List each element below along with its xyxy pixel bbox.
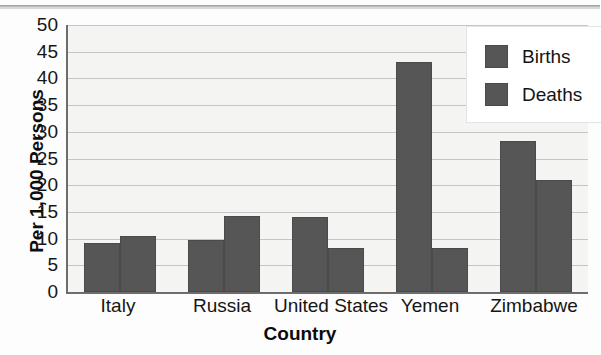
bar-births-russia <box>188 240 224 292</box>
bar-deaths-united-states <box>328 248 364 292</box>
y-axis-tick-label: 10 <box>37 229 58 248</box>
legend-item-deaths: Deaths <box>485 81 582 107</box>
y-axis-tick-label: 50 <box>37 15 58 34</box>
bar-deaths-italy <box>120 236 156 292</box>
bar-births-zimbabwe <box>500 141 536 292</box>
y-axis-tick-label: 5 <box>47 255 58 274</box>
x-axis-tick-label: Russia <box>170 296 274 315</box>
legend-swatch-births <box>485 45 508 68</box>
x-axis-tick-labels: ItalyRussiaUnited StatesYemenZimbabwe <box>0 296 600 324</box>
legend-swatch-deaths <box>485 83 508 106</box>
x-axis-tick-label: United States <box>274 296 378 315</box>
x-axis-tick-label: Yemen <box>378 296 482 315</box>
x-axis-tick-label: Zimbabwe <box>482 296 586 315</box>
y-axis-tick-label: 40 <box>37 68 58 87</box>
bar-births-united-states <box>292 217 328 292</box>
bar-deaths-russia <box>224 216 260 292</box>
y-axis-tick-label: 45 <box>37 42 58 61</box>
y-axis-tick-label: 30 <box>37 122 58 141</box>
scan-artifact-line-secondary <box>0 8 600 9</box>
bar-births-italy <box>84 243 120 292</box>
bar-births-yemen <box>396 62 432 292</box>
bar-deaths-yemen <box>432 248 468 292</box>
y-axis-tick-label: 25 <box>37 149 58 168</box>
x-axis-title: Country <box>0 324 600 343</box>
x-axis-tick-label: Italy <box>66 296 170 315</box>
y-axis-tick-label: 20 <box>37 175 58 194</box>
legend-label-deaths: Deaths <box>522 85 582 104</box>
y-axis-tick-label: 15 <box>37 202 58 221</box>
legend-label-births: Births <box>522 47 571 66</box>
y-axis-tick-label: 35 <box>37 95 58 114</box>
bar-deaths-zimbabwe <box>536 180 572 292</box>
legend: Births Deaths <box>466 26 601 123</box>
legend-item-births: Births <box>485 43 571 69</box>
